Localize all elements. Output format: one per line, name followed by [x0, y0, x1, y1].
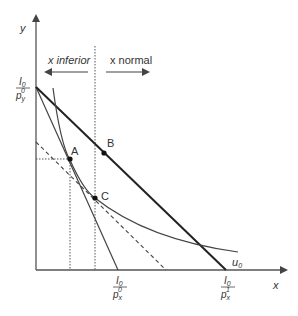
svg-text:px0: px0: [112, 286, 123, 301]
consumer-choice-diagram: y x x inferior x normal A B C u0 I0 py0 …: [0, 0, 298, 316]
region-right-label: x normal: [110, 54, 152, 66]
y-axis-label: y: [19, 22, 27, 34]
u0-sub: 0: [238, 262, 242, 269]
region-left-label: x inferior: [47, 54, 92, 66]
x-normal-text: x normal: [110, 54, 152, 66]
svg-text:px1: px1: [220, 286, 231, 301]
budget-line-initial: [36, 87, 118, 270]
xi0-den-sup: 0: [118, 286, 122, 293]
yi-den-sub: y: [21, 95, 26, 103]
xi1-den-sup: 1: [226, 286, 230, 293]
indifference-curve-u0: [53, 88, 238, 252]
u0-label: u0: [232, 256, 242, 269]
point-b: [101, 150, 106, 155]
x-intercept-1-label: I0 px1: [220, 275, 235, 301]
point-c: [92, 195, 97, 200]
point-a: [67, 156, 72, 161]
xi1-den-sub: x: [226, 294, 231, 301]
x-axis-label: x: [272, 279, 279, 291]
compensated-budget-line: [36, 142, 166, 270]
y-intercept-label: I0 py0: [15, 76, 30, 103]
budget-line-new: [36, 87, 226, 270]
point-a-label: A: [71, 145, 79, 157]
point-c-label: C: [101, 190, 109, 202]
xi0-den-sub: x: [118, 294, 123, 301]
point-b-label: B: [107, 137, 114, 149]
yi-den-sup: 0: [21, 87, 25, 94]
svg-text:py0: py0: [15, 87, 26, 103]
x-intercept-0-label: I0 px0: [112, 275, 127, 301]
x-inferior-text: x inferior: [47, 54, 92, 66]
